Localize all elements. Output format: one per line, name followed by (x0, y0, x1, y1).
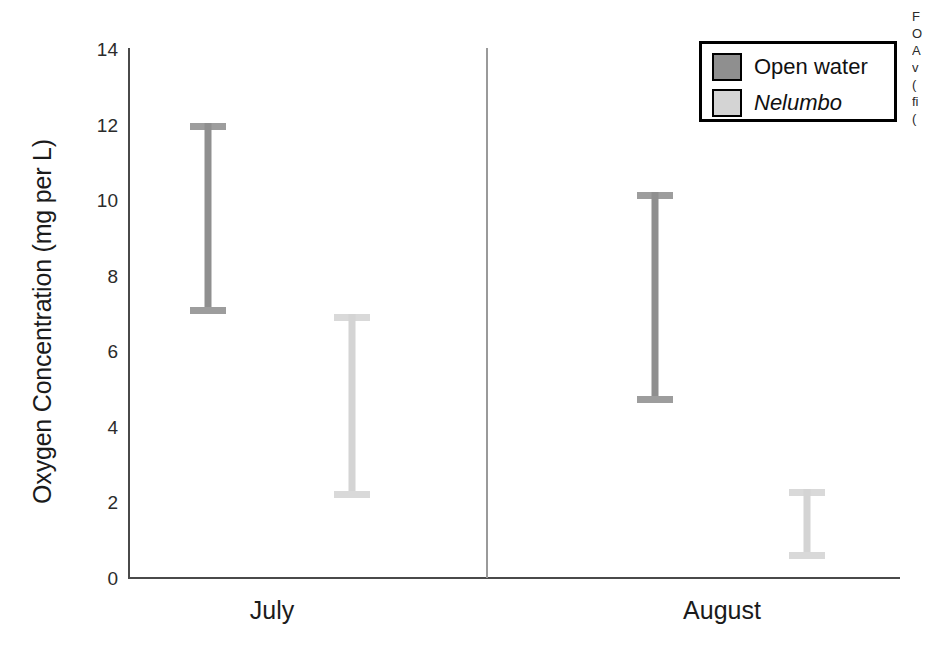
errorbar-stem (804, 489, 811, 559)
errorbar-cap-bottom (334, 491, 370, 498)
errorbar-stem (652, 192, 659, 403)
y-axis-title: Oxygen Concentration (mg per L) (28, 62, 57, 582)
errorbar-august-nelumbo (789, 489, 825, 559)
errorbar-august-open-water (637, 192, 673, 403)
legend-label-nelumbo: Nelumbo (754, 90, 842, 116)
errorbar-cap-bottom (789, 552, 825, 559)
caption-fragment-line: ( (912, 110, 934, 127)
y-tick-4: 4 (74, 417, 118, 439)
y-tick-14: 14 (74, 39, 118, 61)
errorbar-cap-bottom (637, 396, 673, 403)
y-axis-tick-labels: 14 12 10 8 6 4 2 0 (62, 0, 118, 664)
legend-swatch-nelumbo (712, 89, 742, 117)
caption-fragment-line: A (912, 42, 934, 59)
legend-item-nelumbo: Nelumbo (712, 86, 894, 120)
legend-swatch-open-water (712, 53, 742, 81)
x-tick-july: July (250, 596, 294, 625)
y-tick-10: 10 (74, 190, 118, 212)
errorbar-stem (349, 314, 356, 498)
y-axis-line (128, 48, 130, 579)
caption-fragment-line: fi (912, 93, 934, 110)
legend-item-open-water: Open water (712, 50, 894, 84)
y-tick-12: 12 (74, 115, 118, 137)
chart-legend: Open water Nelumbo (699, 41, 897, 122)
y-tick-2: 2 (74, 492, 118, 514)
legend-label-open-water: Open water (754, 54, 868, 80)
y-tick-6: 6 (74, 341, 118, 363)
errorbar-stem (205, 123, 212, 314)
caption-fragment-line: ( (912, 76, 934, 93)
clipped-margin-caption: F O A v ( fi ( (912, 8, 934, 127)
errorbar-cap-bottom (190, 307, 226, 314)
x-tick-august: August (683, 596, 761, 625)
y-tick-0: 0 (74, 568, 118, 590)
y-tick-8: 8 (74, 266, 118, 288)
caption-fragment-line: F (912, 8, 934, 25)
chart-figure: Oxygen Concentration (mg per L) 14 12 10… (0, 0, 934, 664)
group-divider-line (486, 48, 488, 578)
x-axis-line (128, 577, 900, 579)
caption-fragment-line: O (912, 25, 934, 42)
errorbar-july-nelumbo (334, 314, 370, 498)
errorbar-july-open-water (190, 123, 226, 314)
caption-fragment-line: v (912, 59, 934, 76)
